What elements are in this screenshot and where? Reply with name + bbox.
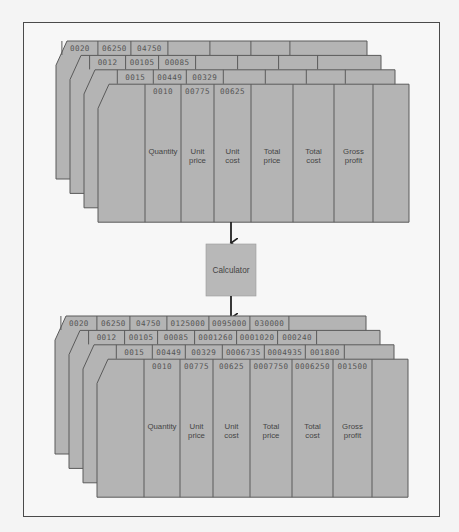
calculator-box: Calculator xyxy=(206,244,256,296)
column-label: cost xyxy=(306,156,321,165)
column-label: Unit xyxy=(226,147,241,156)
card-field-value: 06250 xyxy=(102,44,127,53)
column-label: cost xyxy=(305,431,320,440)
front-card: QuantityUnitpriceUnitcostTotalpriceTotal… xyxy=(97,359,408,497)
card-field-value: 0012 xyxy=(98,58,118,67)
column-label: Total xyxy=(264,147,281,156)
column-label: price xyxy=(189,156,206,165)
column-label: Gross xyxy=(343,147,364,156)
card-field-value: 00329 xyxy=(192,73,217,82)
card-field-value: 0006735 xyxy=(226,348,261,357)
card-field-value: 0020 xyxy=(70,44,90,53)
card-field-value: 0015 xyxy=(125,73,145,82)
card-field-value: 00105 xyxy=(130,58,155,67)
calculator-label: Calculator xyxy=(213,266,250,275)
card-field-value: 06250 xyxy=(101,319,126,328)
card-field-value: 00625 xyxy=(219,362,244,371)
card-field-value: 00085 xyxy=(165,58,190,67)
input-card-deck: 0020062500475000120010500085001500449003… xyxy=(56,41,409,222)
column-label: Quantity xyxy=(147,422,176,431)
column-label: Unit xyxy=(225,422,240,431)
card-field-value: 001800 xyxy=(310,348,340,357)
column-label: Quantity xyxy=(148,147,177,156)
column-label: cost xyxy=(224,431,239,440)
card-field-value: 00329 xyxy=(191,348,216,357)
column-label: Total xyxy=(304,422,321,431)
column-label: Gross xyxy=(342,422,363,431)
front-card: QuantityUnitpriceUnitcostTotalpriceTotal… xyxy=(98,84,409,222)
column-label: Unit xyxy=(191,147,206,156)
card-field-value: 00625 xyxy=(220,87,245,96)
card-field-value: 0012 xyxy=(97,333,117,342)
column-label: Total xyxy=(305,147,322,156)
card-field-value: 0004935 xyxy=(267,348,302,357)
column-label: profit xyxy=(344,431,362,440)
card-field-value: 0007750 xyxy=(254,362,289,371)
card-field-value: 0010 xyxy=(152,362,172,371)
card-field-value: 0006250 xyxy=(295,362,330,371)
card-field-value: 030000 xyxy=(254,319,284,328)
card-field-value: 0001260 xyxy=(198,333,233,342)
card-field-value: 0010 xyxy=(153,87,173,96)
output-card-deck: 0020062500475001250000095000030000001200… xyxy=(55,316,408,497)
column-label: price xyxy=(188,431,205,440)
card-field-value: 000240 xyxy=(282,333,312,342)
column-label: price xyxy=(264,156,281,165)
card-field-value: 0015 xyxy=(124,348,144,357)
card-field-value: 00105 xyxy=(129,333,154,342)
column-label: Total xyxy=(263,422,280,431)
card-field-value: 001500 xyxy=(338,362,368,371)
card-field-value: 0020 xyxy=(69,319,89,328)
card-field-value: 00449 xyxy=(157,73,182,82)
card-calculation-diagram: 0020062500475000120010500085001500449003… xyxy=(0,0,459,532)
card-field-value: 00775 xyxy=(184,362,209,371)
column-label: profit xyxy=(345,156,363,165)
card-field-value: 0095000 xyxy=(212,319,247,328)
card-field-value: 0001020 xyxy=(240,333,275,342)
card-field-value: 00775 xyxy=(185,87,210,96)
column-label: price xyxy=(263,431,280,440)
card-field-value: 00085 xyxy=(164,333,189,342)
card-field-value: 00449 xyxy=(156,348,181,357)
column-label: Unit xyxy=(190,422,205,431)
column-label: cost xyxy=(225,156,240,165)
card-field-value: 0125000 xyxy=(170,319,205,328)
card-field-value: 04750 xyxy=(136,319,161,328)
card-field-value: 04750 xyxy=(137,44,162,53)
